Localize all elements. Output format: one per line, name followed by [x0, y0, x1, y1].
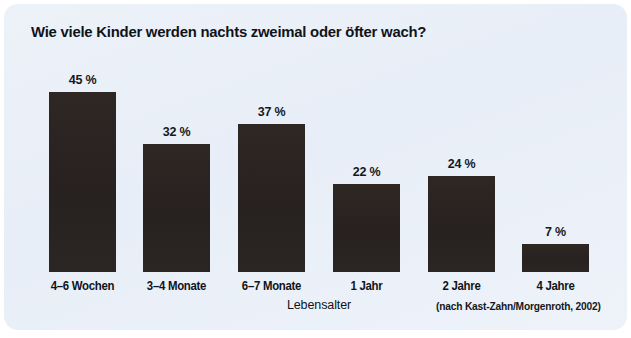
- bar-category-label: 4–6 Wochen: [39, 279, 125, 293]
- bar-value-label: 7 %: [522, 225, 589, 239]
- bar-category-label: 3–4 Monate: [133, 279, 219, 293]
- bar[interactable]: [238, 124, 305, 272]
- bar-category-label: 4 Jahre: [512, 279, 598, 293]
- bar-category-label: 2 Jahre: [418, 279, 504, 293]
- bar-group: 32 %3–4 Monate: [143, 144, 210, 272]
- bar-group: 37 %6–7 Monate: [238, 124, 305, 272]
- bar-value-label: 24 %: [428, 157, 495, 171]
- bar-category-label: 6–7 Monate: [228, 279, 314, 293]
- chart-panel: Wie viele Kinder werden nachts zweimal o…: [4, 4, 627, 330]
- bar-value-label: 45 %: [49, 73, 116, 87]
- bar[interactable]: [143, 144, 210, 272]
- bar[interactable]: [333, 184, 400, 272]
- bar[interactable]: [49, 92, 116, 272]
- figure-container: Wie viele Kinder werden nachts zweimal o…: [0, 0, 631, 338]
- bar-category-label: 1 Jahr: [323, 279, 409, 293]
- bar-value-label: 22 %: [333, 165, 400, 179]
- bar-group: 22 %1 Jahr: [333, 184, 400, 272]
- bar-group: 7 %4 Jahre: [522, 244, 589, 272]
- bar-value-label: 37 %: [238, 105, 305, 119]
- bar-group: 45 %4–6 Wochen: [49, 92, 116, 272]
- bar-value-label: 32 %: [143, 125, 210, 139]
- bar[interactable]: [522, 244, 589, 272]
- plot-area: 45 %4–6 Wochen32 %3–4 Monate37 %6–7 Mona…: [4, 4, 627, 330]
- source-attribution: (nach Kast-Zahn/Morgenroth, 2002): [436, 300, 601, 312]
- bar-group: 24 %2 Jahre: [428, 176, 495, 272]
- bar[interactable]: [428, 176, 495, 272]
